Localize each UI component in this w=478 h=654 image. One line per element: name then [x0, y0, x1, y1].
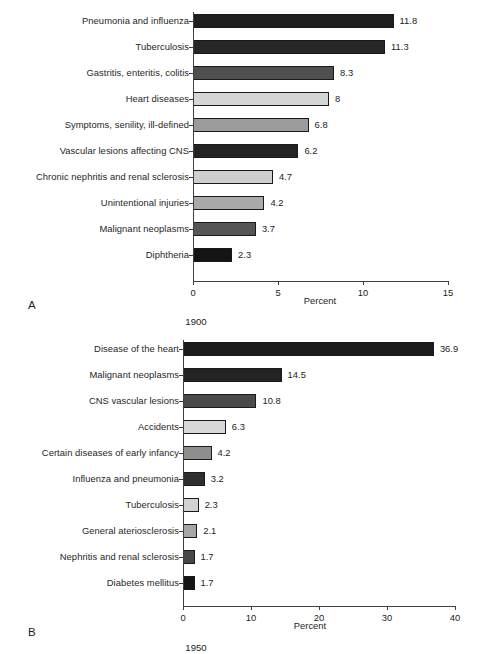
bar-row: Heart diseases8	[0, 90, 478, 108]
bar-row: Diabetes mellitus1.7	[0, 574, 478, 592]
x-axis-tick	[363, 281, 364, 285]
bar	[193, 118, 309, 132]
bar-category-label: General ateriosclerosis	[82, 522, 179, 540]
bar-category-label: Accidents	[138, 418, 179, 436]
bar-row: Gastritis, enteritis, colitis8.3	[0, 64, 478, 82]
bar-value-label: 8.3	[340, 64, 353, 82]
bar	[183, 394, 256, 408]
bar-row: Vascular lesions affecting CNS6.2	[0, 142, 478, 160]
bar-row: Disease of the heart36.9	[0, 340, 478, 358]
bar-category-label: Nephritis and renal sclerosis	[60, 548, 179, 566]
bar-value-label: 4.2	[218, 444, 231, 462]
bar-row: Accidents6.3	[0, 418, 478, 436]
bar-category-label: Chronic nephritis and renal sclerosis	[36, 168, 189, 186]
bar-row: Tuberculosis2.3	[0, 496, 478, 514]
figure-leading-causes-of-death: Pneumonia and influenza11.8Tuberculosis1…	[0, 0, 478, 654]
bar	[183, 368, 282, 382]
bar-category-label: Certain diseases of early infancy	[42, 444, 179, 462]
figure-caption-clipped	[2, 647, 472, 654]
bar-category-label: Malignant neoplasms	[89, 366, 179, 384]
bar	[183, 420, 226, 434]
bar-value-label: 1.7	[201, 548, 214, 566]
bar-value-label: 6.2	[304, 142, 317, 160]
bar	[193, 66, 334, 80]
x-axis-tick	[278, 281, 279, 285]
bar	[193, 248, 232, 262]
panel-b-y-axis-line	[183, 340, 184, 606]
bar-category-label: CNS vascular lesions	[89, 392, 179, 410]
x-axis-tick	[448, 281, 449, 285]
x-axis-tick	[455, 606, 456, 610]
bar	[193, 92, 329, 106]
bar-row: Unintentional injuries4.2	[0, 194, 478, 212]
bar-row: Pneumonia and influenza11.8	[0, 12, 478, 30]
bar-value-label: 3.2	[211, 470, 224, 488]
x-axis-tick-label: 30	[372, 612, 402, 623]
bar-value-label: 3.7	[262, 220, 275, 238]
panel-a-y-axis-line	[193, 12, 194, 281]
bar-row: Certain diseases of early infancy4.2	[0, 444, 478, 462]
bar-value-label: 2.1	[203, 522, 216, 540]
bar-value-label: 10.8	[262, 392, 280, 410]
bar-category-label: Heart diseases	[126, 90, 189, 108]
x-axis-tick	[319, 606, 320, 610]
bar	[193, 222, 256, 236]
bar	[193, 196, 264, 210]
bar-value-label: 11.8	[400, 12, 418, 30]
bar-value-label: 6.8	[315, 116, 328, 134]
bar-category-label: Influenza and pneumonia	[73, 470, 179, 488]
panel-a-letter: A	[28, 299, 36, 311]
bar-value-label: 8	[335, 90, 340, 108]
bar-category-label: Vascular lesions affecting CNS	[60, 142, 189, 160]
bar	[183, 550, 195, 564]
bar-category-label: Diphtheria	[146, 246, 189, 264]
panel-b-x-axis-title: Percent	[250, 620, 370, 631]
bar-row: Malignant neoplasms3.7	[0, 220, 478, 238]
bar	[183, 576, 195, 590]
bar-category-label: Malignant neoplasms	[99, 220, 189, 238]
bar	[183, 342, 434, 356]
bar-value-label: 14.5	[288, 366, 306, 384]
bar	[183, 472, 205, 486]
x-axis-tick	[387, 606, 388, 610]
bar-value-label: 4.7	[279, 168, 292, 186]
bar-value-label: 36.9	[440, 340, 458, 358]
bar-category-label: Tuberculosis	[126, 496, 179, 514]
bar-row: Nephritis and renal sclerosis1.7	[0, 548, 478, 566]
x-axis-tick-label: 15	[433, 287, 463, 298]
bar-value-label: 11.3	[391, 38, 409, 56]
bar-category-label: Tuberculosis	[136, 38, 189, 56]
bar-category-label: Pneumonia and influenza	[82, 12, 189, 30]
bar-value-label: 6.3	[232, 418, 245, 436]
bar-value-label: 1.7	[201, 574, 214, 592]
bar	[183, 446, 212, 460]
bar-value-label: 2.3	[238, 246, 251, 264]
bar-row: Chronic nephritis and renal sclerosis4.7	[0, 168, 478, 186]
panel-a-x-axis-line	[193, 281, 449, 282]
bar-row: General ateriosclerosis2.1	[0, 522, 478, 540]
bar-category-label: Diabetes mellitus	[107, 574, 179, 592]
bar-row: Malignant neoplasms14.5	[0, 366, 478, 384]
bar	[183, 524, 197, 538]
bar-row: CNS vascular lesions10.8	[0, 392, 478, 410]
panel-a-year-label: 1900	[156, 316, 236, 327]
bar-row: Diphtheria2.3	[0, 246, 478, 264]
bar-category-label: Disease of the heart	[94, 340, 179, 358]
panel-b-1950: Disease of the heart36.9Malignant neopla…	[0, 330, 478, 654]
bar-category-label: Unintentional injuries	[101, 194, 189, 212]
bar	[183, 498, 199, 512]
panel-b-letter: B	[28, 626, 36, 638]
x-axis-tick	[183, 606, 184, 610]
panel-a-x-axis-title: Percent	[260, 295, 380, 306]
x-axis-tick-label: 0	[178, 287, 208, 298]
x-axis-tick-label: 40	[440, 612, 470, 623]
bar	[193, 14, 394, 28]
x-axis-tick	[251, 606, 252, 610]
bar-value-label: 4.2	[270, 194, 283, 212]
bar	[193, 40, 385, 54]
bar-value-label: 2.3	[205, 496, 218, 514]
x-axis-tick-label: 0	[168, 612, 198, 623]
bar-row: Symptoms, senility, ill-defined6.8	[0, 116, 478, 134]
bar	[193, 170, 273, 184]
bar-category-label: Gastritis, enteritis, colitis	[86, 64, 189, 82]
